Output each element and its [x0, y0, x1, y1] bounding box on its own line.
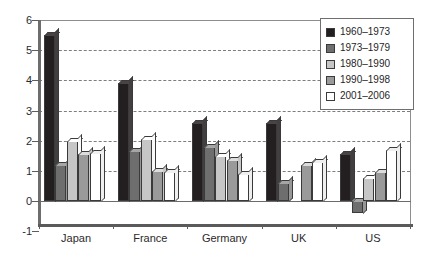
legend-item-label: 1960–1973: [340, 27, 390, 37]
x-axis-category-label: Germany: [202, 232, 247, 244]
bar: [363, 178, 374, 201]
bar: [55, 165, 66, 201]
legend-item[interactable]: 2001–2006: [326, 88, 408, 104]
legend-item[interactable]: 1960–1973: [326, 24, 408, 40]
y-axis-tick-mark: [32, 201, 39, 202]
bar: [312, 162, 323, 201]
legend-item-label: 1980–1990: [340, 59, 390, 69]
bar: [375, 172, 386, 201]
legend-item-label: 2001–2006: [340, 91, 390, 101]
y-axis-tick-mark: [32, 20, 39, 21]
bar: [352, 201, 363, 213]
legend-item[interactable]: 1980–1990: [326, 56, 408, 72]
bar: [266, 123, 277, 201]
bar: [192, 123, 203, 201]
bar-bevel-right: [289, 176, 293, 202]
bar: [67, 141, 78, 201]
bar: [78, 154, 89, 201]
bar-bevel-right: [351, 147, 355, 202]
bar-bevel-right: [175, 165, 179, 202]
legend-swatch-icon: [326, 44, 335, 53]
bar: [340, 154, 351, 201]
bar: [44, 35, 55, 201]
y-axis-tick-mark: [32, 111, 39, 112]
x-axis-tick-mark: [262, 224, 263, 229]
bar: [238, 174, 249, 201]
x-axis-tick-mark: [187, 224, 188, 229]
bar: [129, 151, 140, 201]
legend-item-label: 1990–1998: [340, 75, 390, 85]
bar: [118, 83, 129, 201]
bar-bevel-right: [101, 146, 105, 202]
bar-chart: 6543210-1 JapanFranceGermanyUKUS 1960–19…: [0, 0, 429, 262]
bar: [164, 172, 175, 201]
x-axis-tick-mark: [410, 224, 411, 229]
legend-item[interactable]: 1973–1979: [326, 40, 408, 56]
x-axis-tick-mark: [113, 224, 114, 229]
bar: [141, 139, 152, 201]
bar: [215, 156, 226, 201]
legend-swatch-icon: [326, 60, 335, 69]
legend-swatch-icon: [326, 92, 335, 101]
bar: [204, 147, 215, 201]
legend-item-label: 1973–1979: [340, 43, 390, 53]
bar: [301, 165, 312, 201]
y-axis-tick-mark: [32, 80, 39, 81]
bar: [90, 153, 101, 201]
y-axis-tick-mark: [32, 50, 39, 51]
bar-bevel-right: [323, 155, 327, 202]
x-axis-category-label: Japan: [61, 232, 91, 244]
bar: [278, 183, 289, 201]
bar: [386, 150, 397, 201]
y-axis-tick-mark: [32, 141, 39, 142]
y-axis-tick-mark: [32, 231, 39, 232]
legend-item[interactable]: 1990–1998: [326, 72, 408, 88]
x-axis-category-label: France: [133, 232, 167, 244]
x-axis-category-label: UK: [291, 232, 306, 244]
legend: 1960–19731973–19791980–19901990–19982001…: [320, 18, 414, 110]
x-axis-tick-mark: [336, 224, 337, 229]
bar-bevel-right: [249, 167, 253, 202]
bar-bevel-right: [397, 143, 401, 202]
y-axis-tick-mark: [32, 171, 39, 172]
legend-swatch-icon: [326, 76, 335, 85]
x-axis-tick-mark: [39, 224, 40, 229]
bar: [152, 171, 163, 201]
legend-swatch-icon: [326, 28, 335, 37]
x-axis-category-label: US: [365, 232, 380, 244]
bar: [227, 160, 238, 201]
